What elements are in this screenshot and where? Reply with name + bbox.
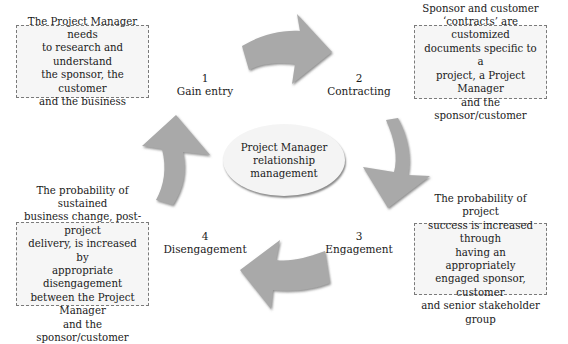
stage-label: Disengagement — [150, 243, 260, 256]
note-line: between the Project Manager — [22, 291, 143, 318]
note-line: and senior stakeholder group — [420, 299, 541, 326]
note-line: delivery, is increased by — [22, 237, 143, 264]
note-line: and the sponsor/customer — [22, 318, 143, 344]
note-engagement: The probability of project success is in… — [414, 223, 547, 295]
center-line: management — [250, 167, 317, 180]
stage-label: Contracting — [304, 85, 414, 98]
note-line: having an appropriately — [420, 246, 541, 273]
stage-number: 4 — [150, 230, 260, 243]
note-contracting: Sponsor and customer ‘contracts’ are cus… — [414, 25, 547, 99]
note-line: project, a Project Manager — [420, 69, 541, 96]
stage-number: 3 — [304, 230, 414, 243]
center-line: Project Manager — [241, 141, 328, 154]
stage-number: 2 — [304, 72, 414, 85]
stage-engagement: 3 Engagement — [304, 230, 414, 256]
note-line: business change, post-project — [22, 210, 143, 237]
stage-gain-entry: 1 Gain entry — [150, 72, 260, 98]
note-line: engaged sponsor, customer — [420, 272, 541, 299]
stage-disengagement: 4 Disengagement — [150, 230, 260, 256]
note-line: Sponsor and customer — [420, 2, 541, 15]
stage-contracting: 2 Contracting — [304, 72, 414, 98]
center-ellipse: Project Manager relationship management — [223, 124, 345, 196]
note-line: The probability of sustained — [22, 184, 143, 211]
note-line: The Project Manager needs — [22, 15, 143, 42]
arrow-up-icon — [142, 115, 210, 205]
center-line: relationship — [253, 154, 315, 167]
note-line: ‘contracts’ are customized — [420, 15, 541, 42]
note-disengagement: The probability of sustained business ch… — [16, 222, 149, 306]
note-line: appropriate disengagement — [22, 264, 143, 291]
note-line: documents specific to a — [420, 42, 541, 69]
note-gain-entry: The Project Manager needs to research an… — [16, 25, 149, 98]
stage-number: 1 — [150, 72, 260, 85]
note-line: the sponsor, the customer — [22, 68, 143, 95]
note-line: and the business — [22, 95, 143, 108]
note-line: success is increased through — [420, 219, 541, 246]
note-line: to research and understand — [22, 41, 143, 68]
note-line: and the sponsor/customer — [420, 96, 541, 123]
stage-label: Gain entry — [150, 85, 260, 98]
note-line: The probability of project — [420, 192, 541, 219]
stage-label: Engagement — [304, 243, 414, 256]
